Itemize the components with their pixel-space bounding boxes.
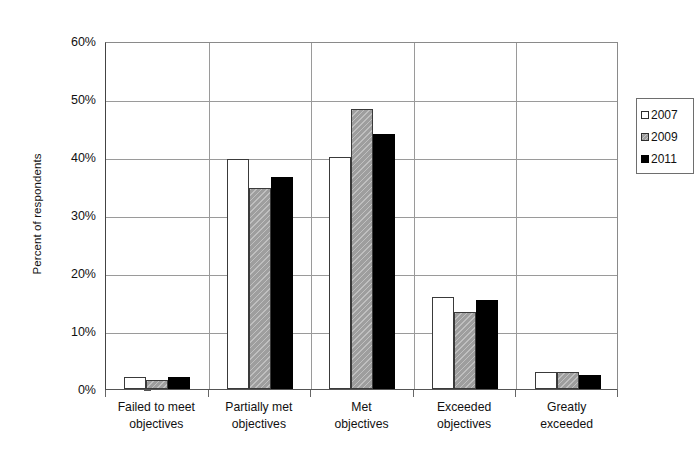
white-square-icon xyxy=(641,111,649,119)
y-axis-tick-label: 60% xyxy=(46,35,96,49)
x-axis-label-line: objectives xyxy=(310,416,413,433)
x-axis-tick-mark xyxy=(617,390,618,397)
y-axis-tick-label: 20% xyxy=(46,267,96,281)
x-axis-label-line: objectives xyxy=(105,416,208,433)
x-axis-tick-mark xyxy=(310,390,311,397)
bar-2007 xyxy=(227,159,249,389)
legend-entry-2011: 2011 xyxy=(641,148,693,170)
x-axis-tick-mark xyxy=(413,390,414,397)
gray-square-icon xyxy=(641,133,649,141)
y-axis-tick-label: 0% xyxy=(46,383,96,397)
x-axis-tick-mark xyxy=(515,390,516,397)
bar-2009 xyxy=(146,380,168,389)
bar-2011 xyxy=(168,377,190,389)
bar-2007 xyxy=(535,372,557,389)
legend-entry-2009: 2009 xyxy=(641,126,693,148)
legend-label: 2009 xyxy=(651,130,678,144)
bar-group xyxy=(516,43,619,389)
legend-entry-2007: 2007 xyxy=(641,104,693,126)
black-square-icon xyxy=(641,155,649,163)
x-axis-label-line: Exceeded xyxy=(413,399,516,416)
bar-2009 xyxy=(557,372,579,389)
y-axis-tick-label: 10% xyxy=(46,325,96,339)
plot-area: 200720092011 xyxy=(105,42,618,390)
y-axis-tick-label: 30% xyxy=(46,209,96,223)
bar-2007 xyxy=(432,297,454,389)
x-axis-category-labels: Failed to meetobjectivesPartially metobj… xyxy=(105,399,618,449)
x-axis-tick-mark xyxy=(208,390,209,397)
legend-label: 2011 xyxy=(651,152,677,166)
x-axis-label-line: Partially met xyxy=(208,399,311,416)
x-axis-label-5: Greatlyexceeded xyxy=(515,399,618,432)
bar-2011 xyxy=(476,300,498,389)
bar-group xyxy=(209,43,312,389)
x-axis-label-line: Failed to meet xyxy=(105,399,208,416)
x-axis-label-line: objectives xyxy=(208,416,311,433)
x-axis-label-3: Metobjectives xyxy=(310,399,413,432)
y-axis-title: Percent of respondents xyxy=(31,114,43,314)
x-axis-label-1: Failed to meetobjectives xyxy=(105,399,208,432)
y-axis-tick-labels: 0%10%20%30%40%50%60% xyxy=(46,42,96,390)
x-axis-label-2: Partially metobjectives xyxy=(208,399,311,432)
y-axis-tick-label: 50% xyxy=(46,93,96,107)
chart-legend: 200720092011 xyxy=(636,98,694,174)
x-axis-label-line: Met xyxy=(310,399,413,416)
bar-2007 xyxy=(329,157,351,389)
bar-2009 xyxy=(454,312,476,389)
bar-2009 xyxy=(351,109,373,389)
x-axis-label-4: Exceededobjectives xyxy=(413,399,516,432)
bar-2007 xyxy=(124,377,146,389)
x-axis-label-line: objectives xyxy=(413,416,516,433)
y-axis-tick-label: 40% xyxy=(46,151,96,165)
bar-group xyxy=(414,43,517,389)
bar-group xyxy=(311,43,414,389)
x-axis-label-line: exceeded xyxy=(515,416,618,433)
bars-layer xyxy=(106,43,617,389)
bar-2011 xyxy=(579,375,601,390)
bar-2011 xyxy=(271,177,293,389)
legend-label: 2007 xyxy=(651,108,678,122)
bar-2011 xyxy=(373,134,395,389)
x-axis-tick-marks xyxy=(105,390,618,398)
x-axis-label-line: Greatly xyxy=(515,399,618,416)
bar-2009 xyxy=(249,188,271,389)
x-axis-tick-mark xyxy=(105,390,106,397)
bar-group xyxy=(106,43,209,389)
